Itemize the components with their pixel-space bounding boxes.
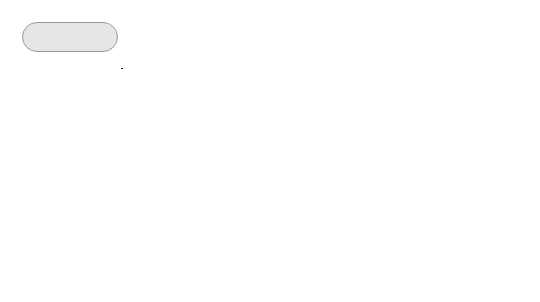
fraction-number-line-diagram (0, 0, 540, 302)
